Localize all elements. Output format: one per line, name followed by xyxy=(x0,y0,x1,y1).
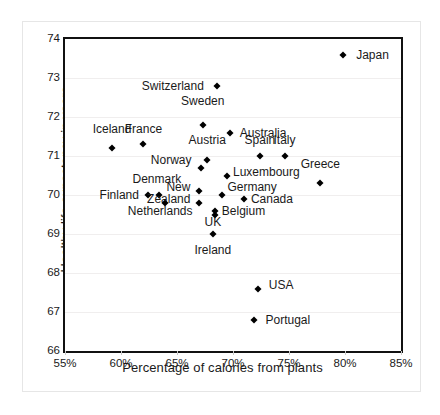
y-tick-label: 66 xyxy=(47,345,60,357)
data-point-label: France xyxy=(125,123,162,135)
data-point-label: UK xyxy=(204,216,221,228)
data-point-marker xyxy=(196,199,203,206)
data-point-label: Norway xyxy=(151,154,192,166)
x-tick-label: 65% xyxy=(165,358,188,370)
x-tick-label: 70% xyxy=(221,358,244,370)
chart-figure: Healthy life expectancy in years Percent… xyxy=(22,21,421,392)
data-point-label: Belgium xyxy=(222,205,265,217)
data-point-marker xyxy=(204,156,211,163)
x-tick-label: 75% xyxy=(277,358,300,370)
gridline xyxy=(65,273,401,274)
gridline xyxy=(65,312,401,313)
data-point-label: Finland xyxy=(100,189,139,201)
y-tick-label: 74 xyxy=(47,33,60,45)
y-tick-label: 69 xyxy=(47,228,60,240)
y-tick-label: 68 xyxy=(47,267,60,279)
data-point-marker xyxy=(209,230,216,237)
data-point-label: USA xyxy=(269,279,294,291)
x-tick-mark xyxy=(401,351,402,355)
data-point-marker xyxy=(196,188,203,195)
data-point-label: Japan xyxy=(356,49,389,61)
x-tick-mark xyxy=(121,351,122,355)
data-point-marker xyxy=(218,191,225,198)
data-point-marker xyxy=(226,129,233,136)
y-tick-label: 67 xyxy=(47,306,60,318)
gridline xyxy=(65,234,401,235)
data-point-label: Sweden xyxy=(181,95,224,107)
y-tick-label: 72 xyxy=(47,111,60,123)
data-point-label: Italy xyxy=(274,134,296,146)
y-tick-label: 73 xyxy=(47,72,60,84)
x-tick-label: 55% xyxy=(53,358,76,370)
data-point-marker xyxy=(140,141,147,148)
gridline xyxy=(65,156,401,157)
data-point-marker xyxy=(256,152,263,159)
x-tick-mark xyxy=(177,351,178,355)
x-tick-mark xyxy=(233,351,234,355)
data-point-marker xyxy=(197,164,204,171)
data-point-label: Ireland xyxy=(194,244,231,256)
x-tick-mark xyxy=(65,351,66,355)
data-point-marker xyxy=(108,145,115,152)
gridline xyxy=(65,78,401,79)
data-point-marker xyxy=(214,82,221,89)
x-tick-label: 85% xyxy=(389,358,412,370)
data-point-label: Netherlands xyxy=(128,205,193,217)
x-tick-mark xyxy=(289,351,290,355)
data-point-label: Spain xyxy=(245,134,276,146)
data-point-marker xyxy=(281,152,288,159)
data-point-marker xyxy=(317,180,324,187)
data-point-label: Luxembourg xyxy=(233,166,300,178)
x-tick-label: 80% xyxy=(333,358,356,370)
gridline xyxy=(65,117,401,118)
data-point-label: Portugal xyxy=(265,314,310,326)
data-point-marker xyxy=(199,121,206,128)
data-point-marker xyxy=(339,51,346,58)
data-point-marker xyxy=(254,285,261,292)
x-tick-label: 60% xyxy=(109,358,132,370)
data-point-label: Austria xyxy=(189,134,226,146)
data-point-marker xyxy=(251,316,258,323)
plot-area: 666768697071727374 55%60%65%70%75%80%85%… xyxy=(63,37,403,353)
data-point-marker xyxy=(241,195,248,202)
data-point-label: Switzerland xyxy=(142,80,204,92)
data-point-label: Greece xyxy=(301,158,340,170)
y-tick-label: 71 xyxy=(47,150,60,162)
data-point-marker xyxy=(224,172,231,179)
x-tick-mark xyxy=(345,351,346,355)
y-tick-label: 70 xyxy=(47,189,60,201)
